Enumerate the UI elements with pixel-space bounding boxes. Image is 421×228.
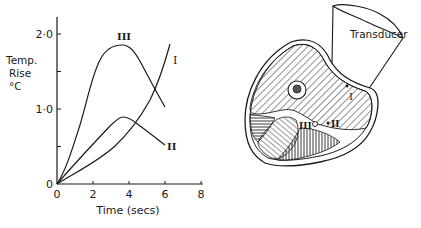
x-tick-label-6: 6 <box>162 188 169 201</box>
figure: 2·0 1·0 0 0 2 4 6 8 Time (secs) Temp. Ri… <box>0 0 421 228</box>
y-axis-title-line2: Rise <box>9 67 31 79</box>
vessel-circle <box>313 122 318 127</box>
y-tick-label-1: 1·0 <box>36 103 54 116</box>
transducer-label: Transducer <box>349 28 408 40</box>
point-II-dot <box>327 122 330 125</box>
point-label-II: II <box>331 119 339 129</box>
curve-I <box>57 44 170 184</box>
anatomy-diagram: Transducer I II III <box>245 5 408 166</box>
curve-III <box>57 45 165 184</box>
x-tick-label-2: 2 <box>90 188 97 201</box>
point-label-I: I <box>349 91 353 102</box>
x-axis-title: Time (secs) <box>95 204 159 217</box>
y-tick-label-0: 0 <box>46 178 53 191</box>
x-tick-label-8: 8 <box>198 188 205 201</box>
x-tick-label-0: 0 <box>54 188 61 201</box>
curve-label-I: I <box>173 54 177 67</box>
y-axis-title-line3: °C <box>9 80 22 92</box>
y-axis-title-line1: Temp. <box>5 54 37 66</box>
bone-marrow <box>293 85 301 93</box>
x-tick-label-4: 4 <box>126 188 133 201</box>
y-tick-label-2: 2·0 <box>36 28 54 41</box>
point-I-dot <box>346 85 349 88</box>
curve-label-II: II <box>167 141 177 152</box>
line-chart: 2·0 1·0 0 0 2 4 6 8 Time (secs) Temp. Ri… <box>5 17 205 217</box>
curve-label-III: III <box>117 31 131 42</box>
point-label-III: III <box>299 121 312 131</box>
